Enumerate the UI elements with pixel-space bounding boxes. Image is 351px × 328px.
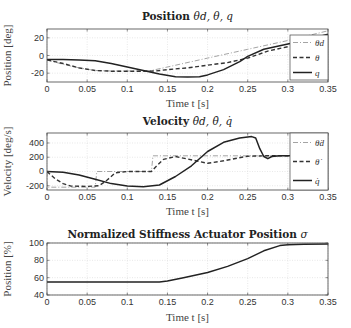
x-tick-label: 0.35 xyxy=(319,192,337,202)
y-tick-label: 60 xyxy=(34,273,44,283)
plot-area xyxy=(47,243,328,295)
x-tick-label: 0 xyxy=(44,297,49,307)
x-tick-label: 0.1 xyxy=(121,297,134,307)
x-tick-label: 0.2 xyxy=(201,84,214,94)
y-tick-label: -200 xyxy=(26,181,44,191)
plot-area xyxy=(47,133,328,190)
legend-label: θ xyxy=(315,53,320,63)
legend-label: q xyxy=(315,68,320,78)
x-tick-label: 0.3 xyxy=(282,84,295,94)
x-tick-label: 0.35 xyxy=(319,297,337,307)
velocity-chart: 00.050.10.150.20.250.30.35-2000200400Vel… xyxy=(1,115,337,217)
y-tick-label: 40 xyxy=(34,290,44,300)
position-chart: 00.050.10.150.20.250.30.35-20020Position… xyxy=(1,10,337,109)
x-axis-label: Time t [s] xyxy=(166,205,209,217)
x-tick-label: 0.05 xyxy=(78,84,96,94)
x-tick-label: 0.3 xyxy=(282,297,295,307)
x-tick-label: 0.05 xyxy=(78,192,96,202)
x-tick-label: 0.3 xyxy=(282,192,295,202)
x-tick-label: 0.1 xyxy=(121,84,134,94)
chart-title: Velocity θ̇d, θ̇, q̇ xyxy=(142,115,233,127)
y-axis-label: Position [%] xyxy=(1,241,13,296)
x-tick-label: 0.15 xyxy=(159,84,177,94)
legend-label: θd xyxy=(315,38,324,48)
x-tick-label: 0.2 xyxy=(201,297,214,307)
legend: θ̇dθ̇q̇ xyxy=(290,133,328,190)
legend-label: q̇ xyxy=(315,176,320,186)
y-tick-label: 0 xyxy=(39,51,44,61)
x-tick-label: 0.15 xyxy=(159,192,177,202)
y-tick-label: 0 xyxy=(39,166,44,176)
y-tick-label: 100 xyxy=(29,238,44,248)
y-tick-label: 20 xyxy=(34,33,44,43)
stiffness-chart: 00.050.10.150.20.250.30.35406080100Norma… xyxy=(1,228,337,323)
y-tick-label: -20 xyxy=(31,68,44,78)
x-tick-label: 0.25 xyxy=(239,84,257,94)
x-tick-label: 0.25 xyxy=(239,192,257,202)
x-axis-label: Time t [s] xyxy=(166,311,209,323)
chart-title: Normalized Stiffness Actuator Position σ xyxy=(67,228,308,240)
x-tick-label: 0.1 xyxy=(121,192,134,202)
x-axis-label: Time t [s] xyxy=(166,97,209,109)
y-tick-label: 80 xyxy=(34,255,44,265)
legend: θdθq xyxy=(290,35,328,80)
x-tick-label: 0 xyxy=(44,192,49,202)
x-tick-label: 0.35 xyxy=(319,84,337,94)
x-tick-label: 0.2 xyxy=(201,192,214,202)
x-tick-label: 0.15 xyxy=(159,297,177,307)
chart-title: Position θd, θ, q xyxy=(142,10,233,22)
legend-label: θ̇d xyxy=(315,138,324,148)
figure: 00.050.10.150.20.250.30.35-20020Position… xyxy=(0,0,351,328)
y-tick-label: 400 xyxy=(29,138,44,148)
x-tick-label: 0 xyxy=(44,84,49,94)
y-axis-label: Position [deg] xyxy=(1,24,13,86)
y-axis-label: Velocity [deg/s] xyxy=(1,127,13,197)
y-tick-label: 200 xyxy=(29,152,44,162)
x-tick-label: 0.25 xyxy=(239,297,257,307)
x-tick-label: 0.05 xyxy=(78,297,96,307)
